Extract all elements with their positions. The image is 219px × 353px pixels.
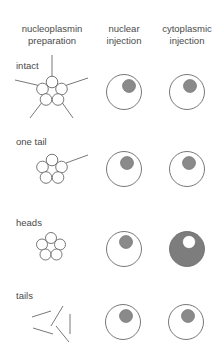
tail-line [32,311,51,317]
svg-text:injection: injection [170,35,205,46]
head-circle [56,83,68,95]
head-circle [37,83,49,95]
row-label-intact: intact [16,60,39,71]
tail-line [15,80,41,86]
cell-heads-nuclear [107,232,142,267]
head-circle [37,239,48,250]
nucleus [121,157,134,170]
nucleus [120,310,133,323]
svg-text:preparation: preparation [28,35,76,46]
tail-line [33,328,53,334]
head-circle [56,161,68,173]
row-label-one-tail: one tail [16,136,47,147]
head-circle [40,249,51,260]
cell-one-tail-cytoplasmic [170,152,205,187]
head-circle [55,239,66,250]
cell-intact-nuclear [107,75,142,110]
cell-intact-cytoplasmic [170,75,205,110]
head-circle [52,94,64,106]
tail-line [61,101,73,118]
cell-tails-cytoplasmic [169,305,204,340]
tail-line [30,101,43,118]
svg-text:nuclear: nuclear [108,23,139,34]
nucleoplasmin-diagram: nucleoplasmin preparation nuclear inject… [0,0,219,353]
cell-tails-nuclear [106,305,141,340]
free-tails [32,306,70,342]
column-header-cytoplasmic-injection: cytoplasmic injection [162,23,212,46]
heads-pentamer [37,233,66,261]
column-header-preparation: nucleoplasmin preparation [22,23,83,46]
head-circle [40,172,52,184]
nucleus [184,80,197,93]
nucleus [183,157,196,170]
svg-text:injection: injection [107,35,142,46]
head-circle [40,94,52,106]
tail-line [64,78,88,86]
tail-line [51,306,63,326]
column-header-nuclear-injection: nuclear injection [107,23,142,46]
svg-text:cytoplasmic: cytoplasmic [162,23,212,34]
head-circle [37,161,49,173]
nucleus [120,236,133,249]
tail-line [66,155,88,163]
head-circle [52,172,64,184]
nucleus [182,310,195,323]
row-label-tails: tails [16,290,33,301]
svg-text:nucleoplasmin: nucleoplasmin [22,23,83,34]
one-tail-pentamer [37,154,88,183]
head-circle [51,249,62,260]
cell-heads-cytoplasmic [170,232,205,267]
cell-one-tail-nuclear [107,152,142,187]
tail-line [56,326,69,342]
nucleus [123,80,136,93]
nucleus [183,236,196,249]
row-label-heads: heads [16,217,42,228]
